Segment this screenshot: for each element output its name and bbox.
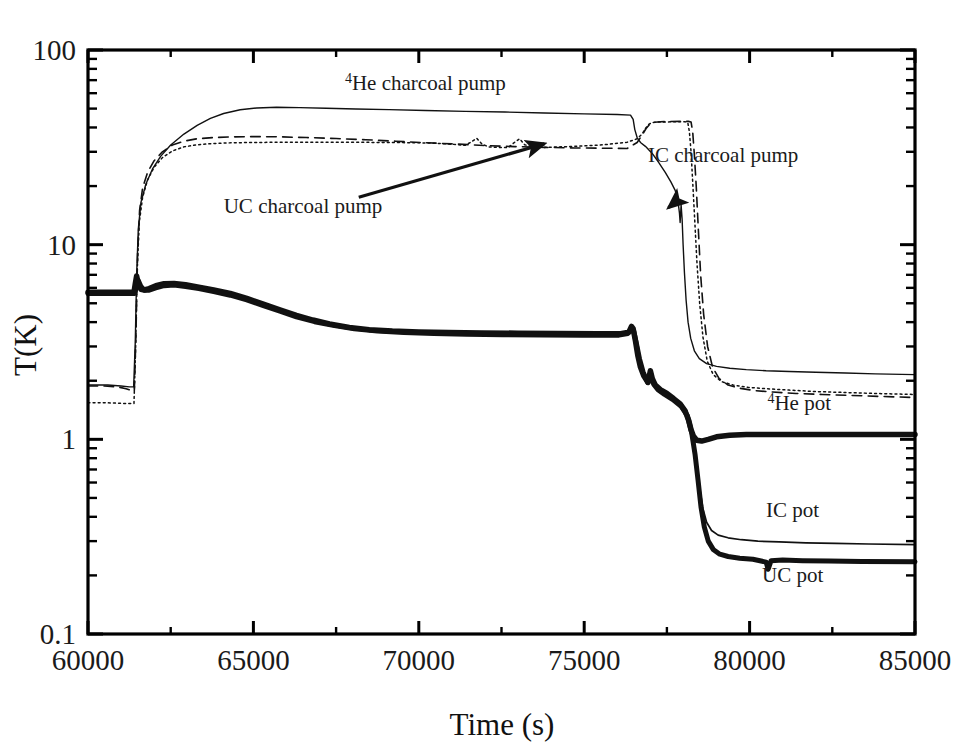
annotation-label: 4He pot: [767, 391, 831, 415]
annotation-label: 4He charcoal pump: [345, 71, 506, 95]
temperature-vs-time-plot: 6000065000700007500080000850000.1110100 …: [0, 0, 980, 754]
chart-figure: 6000065000700007500080000850000.1110100 …: [0, 0, 980, 754]
canvas-background: [0, 0, 980, 754]
x-tick-label: 80000: [713, 644, 786, 676]
x-axis-title: Time (s): [450, 707, 555, 742]
x-tick-label: 65000: [217, 644, 290, 676]
annotation-uc-pot: UC pot: [762, 563, 823, 587]
y-tick-label: 10: [47, 229, 76, 261]
annotation-he4-pot: 4He pot: [767, 391, 831, 415]
x-tick-label: 70000: [383, 644, 456, 676]
annotation-label: UC charcoal pump: [224, 194, 383, 218]
y-tick-label: 0.1: [40, 618, 76, 650]
y-tick-label: 100: [33, 34, 77, 66]
annotation-ic-pot: IC pot: [766, 498, 819, 522]
x-tick-label: 75000: [548, 644, 621, 676]
annotation-he4-charcoal-pump: 4He charcoal pump: [345, 71, 506, 95]
annotation-label: IC charcoal pump: [648, 143, 798, 167]
annotation-label: UC pot: [762, 563, 823, 587]
annotation-label: IC pot: [766, 498, 819, 522]
y-axis-title: T(K): [8, 314, 43, 376]
x-tick-label: 85000: [879, 644, 952, 676]
y-tick-label: 1: [62, 423, 77, 455]
